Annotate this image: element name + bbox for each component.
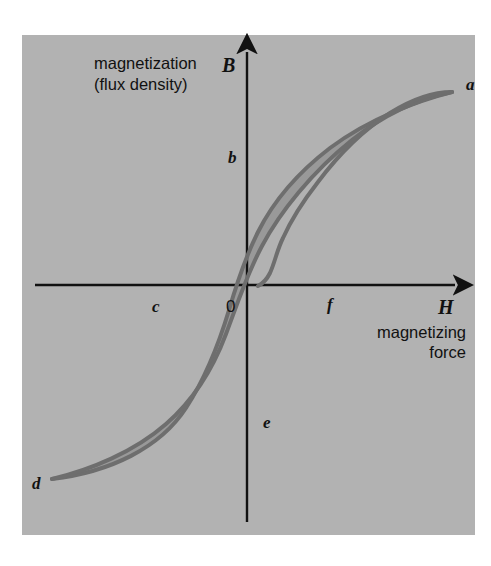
point-label-c: c: [152, 297, 160, 316]
axis-symbols: B H: [221, 54, 455, 318]
horizontal-axis-caption: magnetizing force: [377, 323, 466, 361]
vertical-axis-caption: magnetization (flux density): [94, 54, 197, 93]
point-label-b: b: [228, 148, 237, 167]
magnetizing-caption-line1: magnetizing: [377, 323, 466, 341]
hysteresis-plot: a b c d e f 0 B H magnetization (flux de…: [0, 0, 491, 566]
point-label-a: a: [466, 75, 475, 94]
point-label-e: e: [263, 413, 271, 432]
point-label-f: f: [327, 295, 335, 314]
h-axis-symbol: H: [437, 296, 455, 318]
figure-root: a b c d e f 0 B H magnetization (flux de…: [0, 0, 491, 566]
magnetization-caption-line1: magnetization: [94, 54, 197, 72]
b-axis-symbol: B: [221, 54, 235, 76]
origin-label: 0: [226, 297, 235, 316]
magnetization-caption-line2: (flux density): [94, 75, 188, 93]
point-label-d: d: [32, 474, 41, 493]
magnetizing-caption-line2: force: [429, 343, 466, 361]
